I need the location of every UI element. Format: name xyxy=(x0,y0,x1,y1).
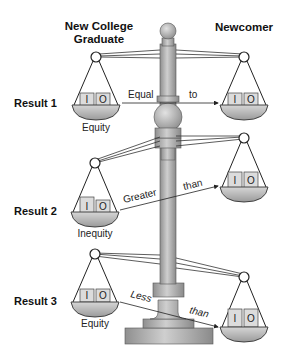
svg-text:O: O xyxy=(247,313,255,324)
svg-text:I: I xyxy=(234,94,237,105)
relation-word-1b: to xyxy=(189,89,198,100)
svg-text:I: I xyxy=(86,201,89,212)
column-header-new-college-graduate: New College Graduate xyxy=(65,20,133,45)
svg-text:O: O xyxy=(99,94,107,105)
pan-result-1-newcomer: I O xyxy=(220,52,268,120)
pan-result-3-graduate: I O xyxy=(71,249,119,317)
svg-text:I: I xyxy=(86,290,89,301)
outcome-result-2: Inequity xyxy=(77,228,112,239)
relation-word-3a: Less xyxy=(130,288,153,304)
outcome-result-3: Equity xyxy=(81,318,109,329)
pan-result-3-newcomer: I O xyxy=(220,272,268,342)
relation-word-2b: than xyxy=(182,177,203,192)
result-label-2: Result 2 xyxy=(14,205,57,217)
column-header-newcomer: Newcomer xyxy=(215,21,274,33)
finial-ball xyxy=(160,23,176,39)
result-label-1: Result 1 xyxy=(14,97,57,109)
svg-text:Graduate: Graduate xyxy=(74,33,125,45)
svg-text:O: O xyxy=(99,201,107,212)
relation-word-1a: Equal xyxy=(128,89,154,100)
svg-text:O: O xyxy=(247,175,255,186)
outcome-result-1: Equity xyxy=(82,122,110,133)
equity-scales-diagram: New College Graduate Newcomer xyxy=(0,0,292,363)
pan-result-1-graduate: I O xyxy=(72,52,120,120)
svg-text:I: I xyxy=(86,94,89,105)
pan-result-2-newcomer: I O xyxy=(220,133,268,202)
svg-text:New College: New College xyxy=(65,20,133,32)
svg-text:O: O xyxy=(247,94,255,105)
center-bulb xyxy=(154,103,182,131)
scale-pole xyxy=(160,44,176,284)
relation-word-3b: than xyxy=(189,304,211,319)
svg-text:O: O xyxy=(99,290,107,301)
result-label-3: Result 3 xyxy=(14,295,57,307)
pan-result-2-graduate: I O xyxy=(71,158,119,227)
svg-text:I: I xyxy=(234,313,237,324)
svg-text:I: I xyxy=(234,175,237,186)
